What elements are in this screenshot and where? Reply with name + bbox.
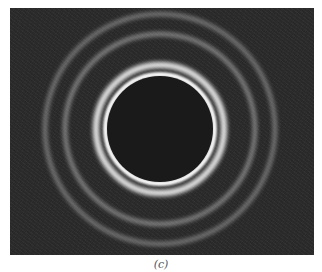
diffraction-pattern-image bbox=[10, 8, 314, 255]
figure-caption: (c) bbox=[0, 258, 322, 272]
central-dark-disk bbox=[107, 76, 213, 182]
